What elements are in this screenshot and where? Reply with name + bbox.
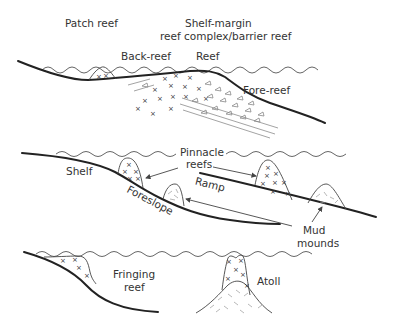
arrow-pinnacle-right (213, 167, 256, 176)
svg-text:×: × (135, 175, 141, 183)
svg-text:×: × (182, 83, 188, 91)
water-surface-left (56, 152, 176, 157)
svg-text:×: × (103, 72, 109, 80)
svg-text:×: × (187, 74, 193, 82)
mud-mound-right (308, 184, 346, 209)
label-mounds: mounds (297, 237, 339, 249)
label-back-reef: Back-reef (121, 50, 171, 62)
svg-text:×: × (270, 188, 276, 196)
svg-text:×: × (265, 164, 271, 172)
arrow-pinnacle-left (146, 168, 178, 178)
atoll-volcanic-fill (210, 290, 262, 313)
svg-text:×: × (96, 73, 102, 81)
svg-text:×: × (281, 179, 287, 187)
label-fringing: Fringing (113, 268, 155, 280)
svg-text:×: × (272, 179, 278, 187)
svg-text:×: × (84, 272, 90, 280)
svg-text:×: × (238, 257, 244, 265)
label-fore-reef: Fore-reef (243, 84, 290, 96)
svg-text:×: × (260, 180, 266, 188)
svg-text:×: × (233, 266, 239, 274)
svg-text:×: × (135, 105, 141, 113)
label-shelf-margin-1: Shelf-margin (185, 17, 252, 29)
label-pinnacle-2: reefs (186, 158, 212, 170)
svg-text:×: × (173, 72, 179, 80)
svg-text:×: × (244, 282, 250, 290)
svg-text:×: × (150, 110, 156, 118)
svg-text:×: × (168, 82, 174, 90)
label-atoll: Atoll (257, 275, 280, 287)
svg-text:×: × (60, 257, 66, 265)
svg-text:×: × (72, 256, 78, 264)
svg-text:×: × (225, 275, 231, 283)
svg-text:×: × (142, 97, 148, 105)
arrow-mud-right (312, 207, 322, 222)
svg-text:×: × (264, 172, 270, 180)
water-surface-right (226, 152, 346, 157)
label-mud: Mud (303, 224, 325, 236)
svg-text:×: × (226, 258, 232, 266)
svg-text:×: × (152, 86, 158, 94)
label-patch-reef: Patch reef (65, 17, 118, 29)
label-shelf: Shelf (66, 165, 92, 177)
panel-shelf-margin: × × × × × × × × × × × × × × × × × (18, 61, 325, 138)
label-pinnacle-1: Pinnacle (180, 146, 224, 158)
label-reef: Reef (196, 50, 219, 62)
svg-text:×: × (157, 95, 163, 103)
label-reef-fringing: reef (124, 281, 145, 293)
svg-text:×: × (196, 85, 202, 93)
svg-text:×: × (273, 170, 279, 178)
svg-text:×: × (76, 264, 82, 272)
svg-text:×: × (168, 105, 174, 113)
svg-text:×: × (285, 190, 291, 198)
svg-text:×: × (170, 93, 176, 101)
label-shelf-margin-2: reef complex/barrier reef (160, 30, 291, 42)
svg-text:×: × (162, 75, 168, 83)
svg-text:×: × (240, 271, 246, 279)
reef-framework-marks: × × × × × × × × × × × × × × × (135, 72, 209, 118)
